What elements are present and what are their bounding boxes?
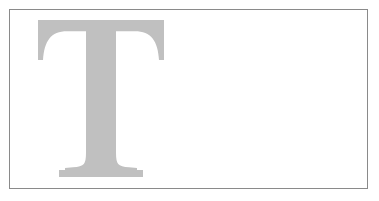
dropcap-path [38, 20, 164, 177]
content-border-box: T [9, 9, 368, 189]
dropcap-letter: T [38, 20, 164, 177]
dropcap-t-glyph: T [38, 20, 164, 177]
page-canvas: T [0, 0, 379, 201]
